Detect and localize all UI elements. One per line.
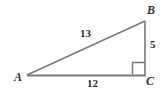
side-label-hypotenuse: 13 [80,28,91,39]
triangle-drawing [0,0,166,94]
side-label-vertical: 5 [150,39,156,50]
vertex-label-b: B [147,4,155,16]
vertex-label-a: A [14,71,22,83]
right-angle-marker [133,63,146,75]
vertex-label-c: C [146,75,154,87]
side-label-base: 12 [87,78,98,89]
geometry-figure: A B C 13 12 5 [0,0,166,94]
